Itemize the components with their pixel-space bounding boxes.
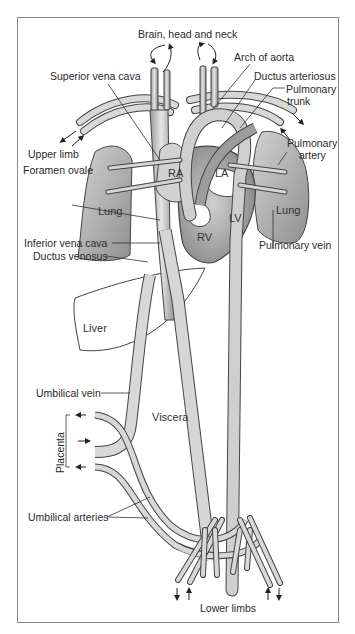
label-ductus-arteriosus: Ductus arteriosus — [254, 70, 336, 82]
label-superior-vena-cava: Superior vena cava — [50, 70, 140, 82]
label-upper-limb: Upper limb — [28, 148, 79, 160]
label-lower-limbs: Lower limbs — [200, 602, 256, 614]
label-liver: Liver — [83, 322, 107, 334]
label-foramen-ovale: Foramen ovale — [23, 164, 93, 176]
label-pulmonary-vein: Pulmonary vein — [259, 239, 331, 251]
label-left-atrium: LA — [215, 167, 228, 179]
label-umbilical-vein: Umbilical vein — [36, 387, 101, 399]
label-left-ventricle: LV — [229, 212, 242, 224]
label-ductus-venosus: Ductus venosus — [33, 250, 108, 262]
upper-limb-vessels — [80, 95, 293, 131]
label-right-atrium: RA — [168, 167, 183, 179]
label-umbilical-arteries: Umbilical arteries — [28, 511, 109, 523]
label-pulmonary-artery-line2: artery — [299, 149, 326, 161]
label-right-ventricle: RV — [197, 231, 212, 243]
label-viscera: Viscera — [152, 411, 188, 423]
label-pulmonary-trunk-line1: Pulmonary — [286, 83, 336, 95]
label-pulmonary-trunk-line2: trunk — [287, 95, 310, 107]
label-brain-head-neck: Brain, head and neck — [138, 28, 237, 40]
label-placenta: Placenta — [54, 432, 66, 473]
label-left-lung: Lung — [98, 205, 122, 217]
label-pulmonary-artery-line1: Pulmonary — [287, 137, 337, 149]
label-right-lung: Lung — [276, 204, 300, 216]
label-inferior-vena-cava: Inferior vena cava — [24, 237, 107, 249]
label-arch-of-aorta: Arch of aorta — [234, 51, 294, 63]
